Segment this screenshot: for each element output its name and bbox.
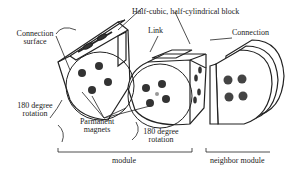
block-label: Half-cubic, half-cylindrical block	[132, 8, 239, 16]
rotation-left-label: 180 degree rotation	[12, 102, 58, 118]
middle-block	[128, 50, 206, 125]
left-block	[58, 20, 130, 120]
connection-surface-label: Connection surface	[10, 30, 60, 46]
connection-label: Connection	[232, 29, 269, 37]
label-line: rotation	[136, 136, 186, 144]
label-line: rotation	[12, 110, 58, 118]
modular-robot-diagram: Connection surface Half-cubic, half-cyli…	[0, 0, 296, 170]
neighbor-module-label: neighbor module	[210, 157, 264, 165]
label-line: surface	[10, 38, 60, 46]
module-label: module	[112, 157, 136, 165]
label-line: magnets	[72, 126, 122, 134]
link-label: Link	[148, 27, 163, 35]
magnets-label: Parmanent magnets	[72, 118, 122, 134]
rotation-right-label: 180 degree rotation	[136, 128, 186, 144]
neighbor-block	[210, 40, 284, 124]
